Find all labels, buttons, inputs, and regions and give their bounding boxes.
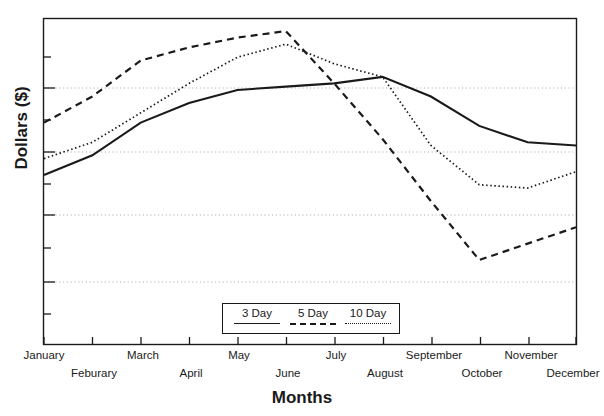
legend-label-10-day: 10 Day	[340, 306, 396, 320]
legend-entry-10-day: 10 Day	[340, 306, 396, 327]
xtick-label-july: July	[326, 349, 346, 361]
line-chart-figure: Dollars ($) Months January Feburary Marc…	[0, 0, 604, 416]
legend-entry-3-day: 3 Day	[229, 306, 285, 327]
xtick-label-april: April	[179, 367, 202, 379]
y-axis-title: Dollars ($)	[12, 68, 32, 188]
xtick-label-may: May	[228, 349, 250, 361]
series-line-3-day	[44, 77, 576, 175]
xtick-label-june: June	[276, 367, 301, 379]
xtick-label-october: October	[462, 367, 503, 379]
series-line-5-day	[44, 31, 576, 260]
legend-label-5-day: 5 Day	[285, 306, 341, 320]
xtick-label-november: November	[504, 349, 557, 361]
legend-swatch-dotted-line-icon	[345, 323, 391, 327]
xtick-label-feburary: Feburary	[71, 367, 117, 379]
legend-entry-5-day: 5 Day	[285, 306, 341, 328]
y-axis-ticks	[44, 57, 55, 314]
legend-swatch-solid-line-icon	[234, 323, 280, 327]
xtick-label-december: December	[546, 367, 599, 379]
legend-swatch-dashed-line-icon	[290, 323, 336, 328]
series-layer	[44, 31, 576, 260]
gridlines-y	[44, 88, 576, 282]
plot-frame	[44, 19, 577, 345]
xtick-label-september: September	[406, 349, 462, 361]
legend-label-3-day: 3 Day	[229, 306, 285, 320]
x-axis-title: Months	[0, 388, 604, 408]
chart-legend: 3 Day 5 Day 10 Day	[222, 303, 400, 334]
xtick-label-january: January	[24, 349, 65, 361]
xtick-label-march: March	[127, 349, 159, 361]
series-line-10-day	[44, 44, 576, 188]
xtick-label-august: August	[367, 367, 403, 379]
x-axis-ticks	[44, 337, 576, 345]
